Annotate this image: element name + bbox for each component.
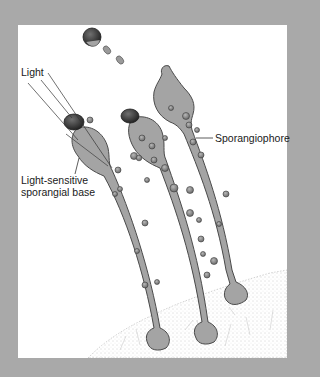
ejected-sporangium: [83, 28, 125, 65]
label-base-line1: Light-sensitive: [21, 174, 88, 186]
substrate: [88, 270, 287, 358]
leader-base: [75, 158, 79, 174]
label-light-sensitive-base: Light-sensitive sporangial base: [21, 174, 121, 198]
label-base-line2: sporangial base: [21, 186, 95, 198]
sporangium-cap-middle: [121, 109, 139, 123]
label-sporangiophore: Sporangiophore: [215, 132, 290, 144]
label-light: Light: [21, 66, 44, 78]
